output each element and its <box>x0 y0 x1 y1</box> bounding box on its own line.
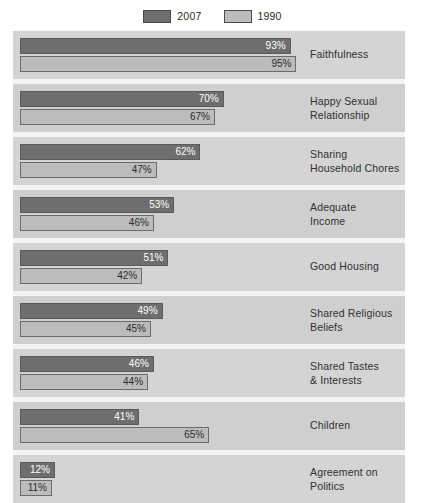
row-label-line2: Beliefs <box>310 320 402 334</box>
bar-2007-value: 46% <box>129 359 149 369</box>
row-label-line1: Happy Sexual <box>310 95 402 109</box>
bar-group: 41%65% <box>20 409 310 445</box>
bar-2007: 53% <box>20 197 174 213</box>
row-label: Children <box>310 419 402 433</box>
bar-1990-value: 46% <box>129 218 149 228</box>
bar-group: 12%11% <box>20 462 310 498</box>
row-label: Shared Tastes& Interests <box>310 360 402 387</box>
bar-1990: 65% <box>20 427 209 443</box>
row-label-line2: Relationship <box>310 108 402 122</box>
bar-2007-value: 70% <box>199 94 219 104</box>
bar-1990-value: 47% <box>132 165 152 175</box>
chart-legend: 20071990 <box>0 6 425 26</box>
legend-label-2007: 2007 <box>177 11 201 22</box>
row-label: SharingHousehold Chores <box>310 148 402 175</box>
bar-2007-value: 41% <box>114 412 134 422</box>
row-label: Happy SexualRelationship <box>310 95 402 122</box>
bar-1990-value: 67% <box>190 112 210 122</box>
row-label-line2: Income <box>310 214 402 228</box>
row-label-line2: Household Chores <box>310 161 402 175</box>
bar-1990: 95% <box>20 56 296 72</box>
bar-1990: 45% <box>20 321 151 337</box>
bar-group: 93%95% <box>20 38 310 74</box>
bar-2007: 12% <box>20 462 55 478</box>
row-label: Good Housing <box>310 260 402 274</box>
legend-swatch-2007 <box>143 10 171 23</box>
chart-row: 41%65%Children <box>13 402 405 450</box>
row-label-line1: Agreement on <box>310 466 402 480</box>
bar-group: 62%47% <box>20 144 310 180</box>
row-label-line1: Shared Religious <box>310 307 402 321</box>
row-label: AdequateIncome <box>310 201 402 228</box>
chart-row: 93%95%Faithfulness <box>13 31 405 79</box>
bar-group: 53%46% <box>20 197 310 233</box>
chart-panel: 93%95%Faithfulness70%67%Happy SexualRela… <box>13 31 405 472</box>
bar-2007: 46% <box>20 356 154 372</box>
row-label: Faithfulness <box>310 48 402 62</box>
bar-2007: 93% <box>20 38 291 54</box>
legend-swatch-1990 <box>224 10 252 23</box>
row-label-line1: Faithfulness <box>310 48 402 62</box>
bar-2007-value: 53% <box>149 200 169 210</box>
bar-2007-value: 49% <box>138 306 158 316</box>
row-label-line2: Politics <box>310 479 402 493</box>
chart-row: 62%47%SharingHousehold Chores <box>13 137 405 185</box>
bar-2007: 70% <box>20 91 224 107</box>
chart-row: 53%46%AdequateIncome <box>13 190 405 238</box>
chart-row: 49%45%Shared ReligiousBeliefs <box>13 296 405 344</box>
bar-group: 51%42% <box>20 250 310 286</box>
row-label: Agreement onPolitics <box>310 466 402 493</box>
bar-2007-value: 51% <box>143 253 163 263</box>
row-label-line2: & Interests <box>310 373 402 387</box>
legend-entry-2007: 2007 <box>143 10 201 23</box>
legend-entry-1990: 1990 <box>224 10 282 23</box>
bar-2007-value: 93% <box>266 41 286 51</box>
legend-label-1990: 1990 <box>258 11 282 22</box>
bar-2007: 62% <box>20 144 200 160</box>
bar-group: 70%67% <box>20 91 310 127</box>
bar-1990-value: 42% <box>117 271 137 281</box>
bar-group: 46%44% <box>20 356 310 392</box>
chart-row: 46%44%Shared Tastes& Interests <box>13 349 405 397</box>
bar-1990-value: 65% <box>184 430 204 440</box>
row-label-line1: Good Housing <box>310 260 402 274</box>
bar-1990: 47% <box>20 162 157 178</box>
row-label: Shared ReligiousBeliefs <box>310 307 402 334</box>
bar-2007: 41% <box>20 409 139 425</box>
bar-2007: 51% <box>20 250 168 266</box>
bar-1990-value: 45% <box>126 324 146 334</box>
row-label-line1: Adequate <box>310 201 402 215</box>
row-label-line1: Children <box>310 419 402 433</box>
row-label-line1: Sharing <box>310 148 402 162</box>
bar-group: 49%45% <box>20 303 310 339</box>
bar-2007: 49% <box>20 303 163 319</box>
row-label-line1: Shared Tastes <box>310 360 402 374</box>
bar-1990: 67% <box>20 109 215 125</box>
bar-1990-value: 44% <box>123 377 143 387</box>
bar-2007-value: 62% <box>175 147 195 157</box>
bar-1990-value: 11% <box>28 483 47 493</box>
chart-row: 12%11%Agreement onPolitics <box>13 455 405 503</box>
chart-row: 51%42%Good Housing <box>13 243 405 291</box>
chart-row: 70%67%Happy SexualRelationship <box>13 84 405 132</box>
bar-2007-value: 12% <box>30 465 50 475</box>
bar-1990: 46% <box>20 215 154 231</box>
bar-1990: 44% <box>20 374 148 390</box>
bar-1990: 42% <box>20 268 142 284</box>
bar-1990: 11% <box>20 480 52 496</box>
bar-1990-value: 95% <box>271 59 291 69</box>
